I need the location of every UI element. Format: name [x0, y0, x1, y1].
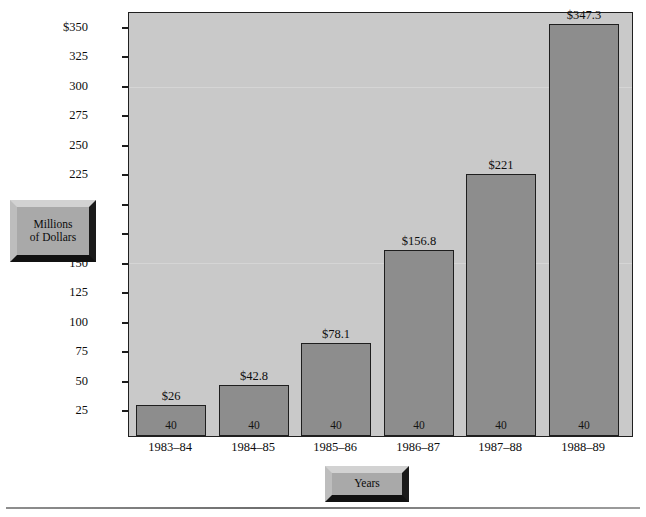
y-tick-label: 275	[69, 108, 88, 122]
bar-series: $26 40 $42.8 40 $78.1 40 $156.8 40 $221 …	[129, 13, 632, 436]
bar-value-label: $42.8	[206, 369, 302, 383]
plot-area: $26 40 $42.8 40 $78.1 40 $156.8 40 $221 …	[128, 12, 633, 437]
x-axis-label-text: Years	[352, 477, 382, 491]
x-tick-label: 1988–89	[533, 440, 633, 455]
bar-inner-label: 40	[220, 419, 288, 432]
bar-1986-87[interactable]: $156.8 40	[384, 250, 454, 436]
y-tick-label: 300	[69, 79, 88, 93]
bar-inner-label: 40	[302, 419, 370, 432]
y-tick-label: 125	[69, 285, 88, 299]
bottom-divider	[6, 507, 640, 509]
y-axis-label-line2: of Dollars	[30, 231, 76, 243]
bar-1983-84[interactable]: $26 40	[136, 405, 206, 436]
y-tick-label: $350	[63, 20, 88, 34]
bar-1987-88[interactable]: $221 40	[466, 174, 536, 436]
bar-value-label: $78.1	[288, 327, 384, 341]
bar-1985-86[interactable]: $78.1 40	[301, 343, 371, 436]
y-tick-label: 325	[69, 49, 88, 63]
bar-1984-85[interactable]: $42.8 40	[219, 385, 289, 436]
bar-value-label: $156.8	[371, 234, 467, 248]
bar-value-label: $26	[123, 389, 219, 403]
bar-1988-89[interactable]: $347.3 40	[549, 24, 619, 436]
bar-inner-label: 40	[550, 419, 618, 432]
x-axis: 1983–84 1984–85 1985–86 1986–87 1987–88 …	[128, 440, 633, 462]
y-axis-label-line1: Millions	[34, 218, 73, 230]
x-axis-label-box: Years	[325, 466, 409, 502]
bar-inner-label: 40	[137, 419, 205, 432]
y-tick-label: 250	[69, 138, 88, 152]
bar-value-label: $347.3	[536, 8, 632, 22]
y-tick-label: 50	[76, 374, 89, 388]
y-tick-label: 225	[69, 167, 88, 181]
y-tick-label: 75	[76, 344, 89, 358]
bar-inner-label: 40	[467, 419, 535, 432]
y-axis-label-box: Millions of Dollars	[10, 200, 96, 262]
y-axis-label-text: Millions of Dollars	[28, 218, 78, 245]
y-tick-label: 100	[69, 315, 88, 329]
bar-chart-figure: $350 325 300 275 250 225 200 175 150 125…	[0, 0, 646, 517]
bar-value-label: $221	[453, 158, 549, 172]
bar-inner-label: 40	[385, 419, 453, 432]
y-tick-label: 25	[76, 403, 89, 417]
